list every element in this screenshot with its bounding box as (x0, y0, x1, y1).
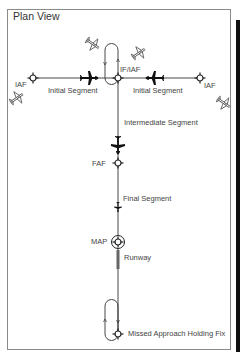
aircraft-outline-icon (128, 43, 148, 63)
fix-icon-faf (113, 158, 124, 169)
aircraft-icon-final (114, 202, 122, 212)
label-map: MAP (91, 238, 107, 246)
fix-icon-missed-approach-holding (113, 329, 124, 340)
aircraft-icon-left-inbound (80, 71, 98, 85)
label-iaf-left: IAF (15, 81, 27, 89)
label-initial-segment-right: Initial Segment (133, 87, 183, 95)
label-iaf-right: IAF (204, 82, 216, 90)
label-final-segment: Final Segment (123, 195, 171, 203)
label-initial-segment-left: Initial Segment (48, 87, 98, 95)
fix-icon-if-iaf (113, 73, 124, 84)
aircraft-outline-icon (6, 88, 26, 108)
label-faf: FAF (92, 160, 106, 168)
fix-icon-iaf-left (28, 73, 39, 84)
label-if-iaf: IF/IAF (120, 66, 140, 74)
aircraft-outline-icon (213, 93, 233, 113)
plan-view-diagram: Plan View (0, 0, 240, 359)
aircraft-outline-icon (82, 34, 102, 54)
aircraft-icon-intermediate (111, 136, 125, 154)
aircraft-icon-right-inbound (147, 71, 165, 85)
diagram-graphics (0, 0, 240, 359)
runway-strip (117, 250, 120, 269)
label-runway: Runway (124, 254, 151, 262)
fix-icon-map (112, 236, 125, 249)
label-missed-approach-holding-fix: Missed Approach Holding Fix (128, 330, 225, 338)
label-intermediate-segment: Intermediate Segment (124, 119, 198, 127)
